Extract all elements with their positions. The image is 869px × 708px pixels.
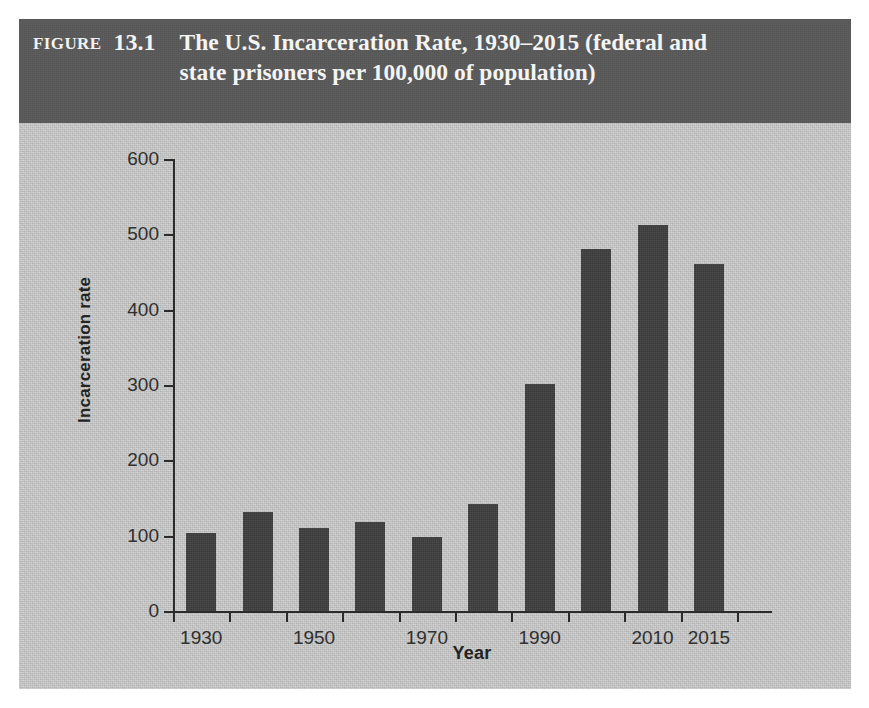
x-tick-label: 2015 <box>688 627 730 649</box>
x-tick-label: 1970 <box>406 627 448 649</box>
bar-texture <box>525 384 555 611</box>
x-tick-label: 1930 <box>180 627 222 649</box>
x-tick-mark <box>568 611 570 622</box>
bar <box>243 512 273 611</box>
x-tick-label: 1950 <box>293 627 335 649</box>
bar-texture <box>299 528 329 611</box>
bar-texture <box>355 522 385 611</box>
y-tick-mark <box>164 234 174 236</box>
bar <box>412 537 442 611</box>
bar <box>355 522 385 611</box>
bar <box>638 225 668 611</box>
bar <box>468 504 498 611</box>
y-tick-label: 200 <box>127 449 159 471</box>
y-tick-mark <box>164 159 174 161</box>
figure-header: FIGURE 13.1 The U.S. Incarceration Rate,… <box>19 19 851 123</box>
chart-panel: Incarceration rate Year 0100200300400500… <box>19 123 851 689</box>
bar <box>581 249 611 611</box>
figure-label: FIGURE <box>33 27 102 59</box>
x-tick-mark <box>286 611 288 622</box>
y-tick-label: 500 <box>127 223 159 245</box>
y-tick-label: 400 <box>127 299 159 321</box>
x-tick-mark <box>681 611 683 622</box>
bar <box>186 533 216 611</box>
y-axis-title: Incarceration rate <box>75 277 95 423</box>
x-tick-mark <box>455 611 457 622</box>
x-axis-title: Year <box>173 643 771 664</box>
bar-texture <box>468 504 498 611</box>
x-tick-mark <box>173 611 175 622</box>
figure-number: 13.1 <box>114 27 156 57</box>
bar-texture <box>186 533 216 611</box>
figure-title: The U.S. Incarceration Rate, 1930–2015 (… <box>180 27 740 87</box>
x-tick-mark <box>342 611 344 622</box>
y-tick-label: 600 <box>127 148 159 170</box>
y-tick-label: 300 <box>127 374 159 396</box>
x-tick-mark <box>737 611 739 622</box>
bar <box>525 384 555 611</box>
bar-texture <box>638 225 668 611</box>
figure-header-row: FIGURE 13.1 The U.S. Incarceration Rate,… <box>33 27 837 87</box>
figure-container: FIGURE 13.1 The U.S. Incarceration Rate,… <box>0 0 869 708</box>
y-tick-mark <box>164 385 174 387</box>
bar <box>299 528 329 611</box>
bar-texture <box>581 249 611 611</box>
y-tick-mark <box>164 460 174 462</box>
x-tick-mark <box>229 611 231 622</box>
bar <box>694 264 724 611</box>
y-tick-mark <box>164 536 174 538</box>
x-tick-label: 2010 <box>631 627 673 649</box>
bar-texture <box>694 264 724 611</box>
x-tick-mark <box>511 611 513 622</box>
figure-label-text: FIGURE <box>33 34 102 53</box>
x-tick-mark <box>624 611 626 622</box>
x-tick-mark <box>399 611 401 622</box>
bar-texture <box>412 537 442 611</box>
x-tick-label: 1990 <box>519 627 561 649</box>
y-tick-mark <box>164 310 174 312</box>
y-tick-label: 0 <box>148 600 159 622</box>
bar-texture <box>243 512 273 611</box>
y-tick-label: 100 <box>127 525 159 547</box>
plot-area: 0100200300400500600 19301950197019902010… <box>173 159 771 611</box>
